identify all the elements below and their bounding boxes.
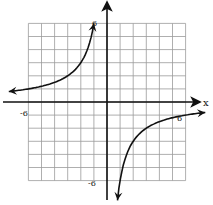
x-axis-label: x bbox=[203, 97, 209, 108]
tick-label-x-neg: -6 bbox=[20, 109, 28, 118]
graph: x -6 6 6 -6 bbox=[0, 0, 213, 205]
tick-label-y-neg: -6 bbox=[88, 179, 96, 188]
x-axis-arrow-icon bbox=[192, 98, 200, 106]
tick-label-x-pos: 6 bbox=[177, 114, 182, 123]
axes bbox=[3, 2, 200, 200]
curve-right-branch bbox=[118, 113, 206, 201]
tick-label-y-pos: 6 bbox=[92, 19, 97, 28]
y-axis-arrow-up-icon bbox=[103, 2, 111, 10]
